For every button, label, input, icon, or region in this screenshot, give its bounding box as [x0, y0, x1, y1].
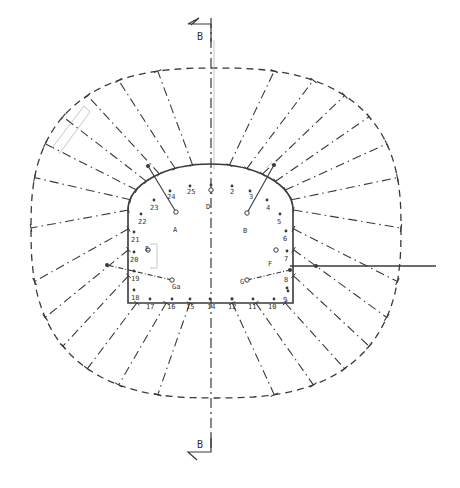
- perimeter-point-8: [287, 290, 290, 293]
- radial-line: [87, 96, 159, 174]
- perimeter-point-25: [189, 185, 192, 188]
- radial-line: [294, 276, 370, 346]
- guide-mark-b: [266, 162, 272, 168]
- radial-line: [158, 303, 190, 395]
- instrument-anchor-A: [146, 164, 150, 168]
- radial-end-tick: [384, 314, 389, 320]
- instrument-label-Gb: G: [240, 278, 244, 286]
- point-label-21: 21: [131, 236, 139, 244]
- point-label-7: 7: [284, 255, 288, 263]
- perimeter-point-4: [266, 199, 269, 202]
- perimeter-point-13: [231, 298, 234, 301]
- point-label-14: 14: [207, 303, 215, 311]
- radial-line: [158, 71, 193, 165]
- radial-end-tick: [43, 140, 47, 147]
- point-label-8: 8: [284, 276, 288, 284]
- radial-line: [63, 117, 147, 182]
- outer-dashed-boundary: [31, 68, 401, 398]
- point-label-12: 12: [228, 303, 236, 311]
- radial-end-tick: [43, 314, 48, 320]
- radial-line: [229, 71, 274, 165]
- radial-end-tick: [84, 366, 90, 371]
- radial-lines: [30, 69, 401, 396]
- radial-line: [294, 210, 402, 228]
- point-label-2: 2: [230, 188, 234, 196]
- perimeter-point-5: [279, 213, 282, 216]
- radial-line: [294, 250, 387, 318]
- perimeter-point-10: [273, 298, 276, 301]
- radial-line: [45, 250, 128, 318]
- perimeter-point-20: [133, 251, 136, 254]
- radial-line: [276, 117, 370, 182]
- point-label-17: 17: [146, 303, 154, 311]
- radial-line: [247, 80, 314, 168]
- guide-box-upper-left: [52, 106, 90, 154]
- point-label-16: 16: [167, 303, 175, 311]
- radial-line: [294, 229, 398, 282]
- instrument-label-D: D: [206, 203, 210, 211]
- instrument-label-E: E: [145, 245, 149, 253]
- perimeter-point-15: [189, 298, 192, 301]
- perimeter-point-21: [133, 231, 136, 234]
- diagram-svg: 123456789101112141516171819202122232425 …: [0, 0, 460, 488]
- point-label-15: 15: [186, 303, 194, 311]
- instrument-head-Ga: [170, 278, 174, 282]
- point-label-5: 5: [277, 218, 281, 226]
- perimeter-point-11: [252, 298, 255, 301]
- instrument-head-Gb: [245, 278, 249, 282]
- perimeter-point-24: [169, 190, 172, 193]
- radial-line: [232, 303, 274, 395]
- point-label-4: 4: [266, 204, 270, 212]
- radial-end-tick: [310, 78, 316, 83]
- point-label-23: 23: [150, 204, 158, 212]
- radial-end-tick: [310, 383, 317, 388]
- point-label-20: 20: [130, 256, 138, 264]
- perimeter-point-3: [249, 190, 252, 193]
- instrument-head-B: [245, 211, 249, 215]
- instrument-line-Ga: [107, 265, 172, 280]
- perimeter-point-23: [153, 199, 156, 202]
- perimeter-point-16: [171, 298, 174, 301]
- instrument-label-B: B: [243, 227, 247, 235]
- outer-boundary: [31, 68, 401, 398]
- instrument-anchor-Gb: [288, 268, 292, 272]
- point-label-3: 3: [249, 193, 253, 201]
- point-label-19: 19: [131, 275, 139, 283]
- radial-end-tick: [342, 93, 348, 99]
- radial-line: [119, 303, 167, 385]
- point-label-25: 25: [187, 188, 195, 196]
- radial-line: [35, 178, 131, 200]
- radial-end-tick: [342, 366, 348, 371]
- instrument-label-A: A: [173, 226, 178, 234]
- radial-end-tick: [115, 383, 122, 387]
- radial-line: [291, 178, 397, 200]
- perimeter-point-1: [210, 184, 213, 187]
- radial-line: [31, 210, 129, 228]
- instrument-label-F: F: [268, 260, 272, 268]
- instrument-label-Ga: Ga: [172, 283, 180, 291]
- tunnel-cross-section-diagram: 123456789101112141516171819202122232425 …: [0, 0, 460, 488]
- perimeter-point-6: [285, 230, 288, 233]
- point-label-18: 18: [131, 294, 139, 302]
- radial-line: [87, 303, 136, 369]
- instrument-anchor-Ga: [105, 263, 109, 267]
- perimeter-point-22: [140, 213, 143, 216]
- perimeter-point-2: [231, 185, 234, 188]
- instrument-head-F: [274, 248, 278, 252]
- radial-line: [45, 144, 136, 190]
- section-label-bottom: B: [197, 439, 203, 450]
- extension-node: [314, 264, 318, 268]
- radial-end-tick: [385, 140, 388, 147]
- section-label-top: B: [197, 31, 203, 42]
- point-label-10: 10: [268, 303, 276, 311]
- perimeter-point-14: [209, 298, 212, 301]
- radial-line: [35, 229, 129, 282]
- point-label-9: 9: [283, 296, 287, 304]
- instrument-anchor-B: [272, 163, 276, 167]
- perimeter-point-17: [149, 298, 152, 301]
- radial-end-tick: [60, 114, 65, 120]
- instrument-head-D: [209, 188, 213, 192]
- radial-line: [63, 276, 129, 346]
- guide-box-e: [150, 244, 157, 268]
- perimeter-point-9: [286, 287, 289, 290]
